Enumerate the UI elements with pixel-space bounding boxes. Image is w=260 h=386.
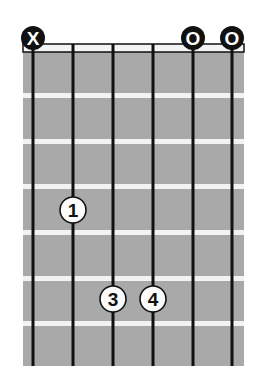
fret-3 <box>23 184 244 189</box>
finger-marker-1: 1 <box>60 197 86 223</box>
finger-number: 4 <box>148 289 159 310</box>
chord-diagram-svg: X O O 1 3 4 <box>0 0 260 386</box>
open-label: O <box>225 28 240 49</box>
fret-2 <box>23 139 244 144</box>
fretboard <box>23 52 244 366</box>
finger-number: 1 <box>68 200 79 221</box>
fret-5 <box>23 276 244 281</box>
finger-marker-4: 4 <box>140 286 166 312</box>
finger-number: 3 <box>108 289 119 310</box>
open-string-marker-6: O <box>220 26 244 50</box>
muted-label: X <box>27 28 40 49</box>
finger-marker-3: 3 <box>100 286 126 312</box>
fret-6 <box>23 321 244 326</box>
fret-1 <box>23 93 244 98</box>
muted-string-marker: X <box>21 26 45 50</box>
fret-4 <box>23 230 244 235</box>
open-string-marker-5: O <box>181 26 205 50</box>
open-label: O <box>186 28 201 49</box>
chord-diagram: X O O 1 3 4 <box>0 0 260 386</box>
nut <box>23 44 244 52</box>
